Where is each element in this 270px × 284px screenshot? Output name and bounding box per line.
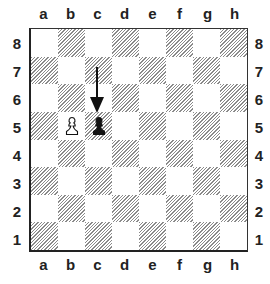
rank-label-left-7: 7	[10, 64, 24, 80]
square-h1	[220, 222, 247, 250]
rank-label-left-2: 2	[10, 204, 24, 220]
black-pawn-icon	[85, 112, 112, 140]
square-c8	[85, 29, 112, 57]
square-c2	[85, 195, 112, 223]
file-label-top-h: h	[221, 6, 248, 22]
file-label-bottom-g: g	[194, 257, 221, 273]
square-a2	[31, 195, 58, 223]
rank-label-right-5: 5	[252, 120, 266, 136]
square-c6	[85, 84, 112, 112]
square-d6	[112, 84, 139, 112]
file-label-top-e: e	[139, 6, 166, 22]
square-c4	[85, 140, 112, 168]
rank-label-right-4: 4	[252, 148, 266, 164]
file-label-bottom-h: h	[221, 257, 248, 273]
square-b7	[58, 57, 85, 85]
square-h5	[220, 112, 247, 140]
square-c7	[85, 57, 112, 85]
rank-label-right-7: 7	[252, 64, 266, 80]
square-c5	[85, 112, 112, 140]
chess-diagram: a b c d e f g h a b c d e f g h 8 7 6 5 …	[0, 0, 270, 284]
square-b5	[58, 112, 85, 140]
square-e3	[139, 167, 166, 195]
file-label-top-a: a	[30, 6, 57, 22]
file-label-bottom-a: a	[30, 257, 57, 273]
square-g5	[193, 112, 220, 140]
file-label-bottom-c: c	[84, 257, 111, 273]
square-a5	[31, 112, 58, 140]
square-a8	[31, 29, 58, 57]
square-a3	[31, 167, 58, 195]
square-e2	[139, 195, 166, 223]
square-d5	[112, 112, 139, 140]
rank-label-right-8: 8	[252, 36, 266, 52]
rank-label-left-4: 4	[10, 148, 24, 164]
square-g2	[193, 195, 220, 223]
square-c3	[85, 167, 112, 195]
square-b1	[58, 222, 85, 250]
rank-label-right-3: 3	[252, 176, 266, 192]
file-label-top-g: g	[194, 6, 221, 22]
square-d4	[112, 140, 139, 168]
white-pawn-icon	[58, 112, 85, 140]
file-label-bottom-f: f	[166, 257, 193, 273]
square-f7	[166, 57, 193, 85]
square-b2	[58, 195, 85, 223]
square-f5	[166, 112, 193, 140]
rank-label-left-5: 5	[10, 120, 24, 136]
square-d1	[112, 222, 139, 250]
square-f6	[166, 84, 193, 112]
rank-label-left-3: 3	[10, 176, 24, 192]
square-d8	[112, 29, 139, 57]
rank-label-left-6: 6	[10, 92, 24, 108]
square-h3	[220, 167, 247, 195]
square-h7	[220, 57, 247, 85]
file-label-top-b: b	[57, 6, 84, 22]
square-e1	[139, 222, 166, 250]
square-h8	[220, 29, 247, 57]
square-g4	[193, 140, 220, 168]
file-label-top-c: c	[84, 6, 111, 22]
square-c1	[85, 222, 112, 250]
square-e6	[139, 84, 166, 112]
square-g6	[193, 84, 220, 112]
square-h4	[220, 140, 247, 168]
square-g3	[193, 167, 220, 195]
rank-label-left-8: 8	[10, 36, 24, 52]
square-b8	[58, 29, 85, 57]
square-d7	[112, 57, 139, 85]
chess-board	[29, 28, 248, 252]
square-b6	[58, 84, 85, 112]
square-f2	[166, 195, 193, 223]
square-f4	[166, 140, 193, 168]
square-f8	[166, 29, 193, 57]
square-d2	[112, 195, 139, 223]
square-a7	[31, 57, 58, 85]
square-e5	[139, 112, 166, 140]
square-a1	[31, 222, 58, 250]
square-g8	[193, 29, 220, 57]
square-a6	[31, 84, 58, 112]
file-label-bottom-e: e	[139, 257, 166, 273]
square-e4	[139, 140, 166, 168]
square-g1	[193, 222, 220, 250]
rank-label-right-2: 2	[252, 204, 266, 220]
square-b3	[58, 167, 85, 195]
rank-label-right-1: 1	[252, 232, 266, 248]
rank-label-left-1: 1	[10, 232, 24, 248]
square-a4	[31, 140, 58, 168]
square-f3	[166, 167, 193, 195]
square-h2	[220, 195, 247, 223]
file-label-top-d: d	[111, 6, 138, 22]
square-e7	[139, 57, 166, 85]
file-label-top-f: f	[166, 6, 193, 22]
square-d3	[112, 167, 139, 195]
square-g7	[193, 57, 220, 85]
file-label-bottom-b: b	[57, 257, 84, 273]
square-f1	[166, 222, 193, 250]
rank-label-right-6: 6	[252, 92, 266, 108]
square-e8	[139, 29, 166, 57]
square-h6	[220, 84, 247, 112]
file-label-bottom-d: d	[111, 257, 138, 273]
square-b4	[58, 140, 85, 168]
